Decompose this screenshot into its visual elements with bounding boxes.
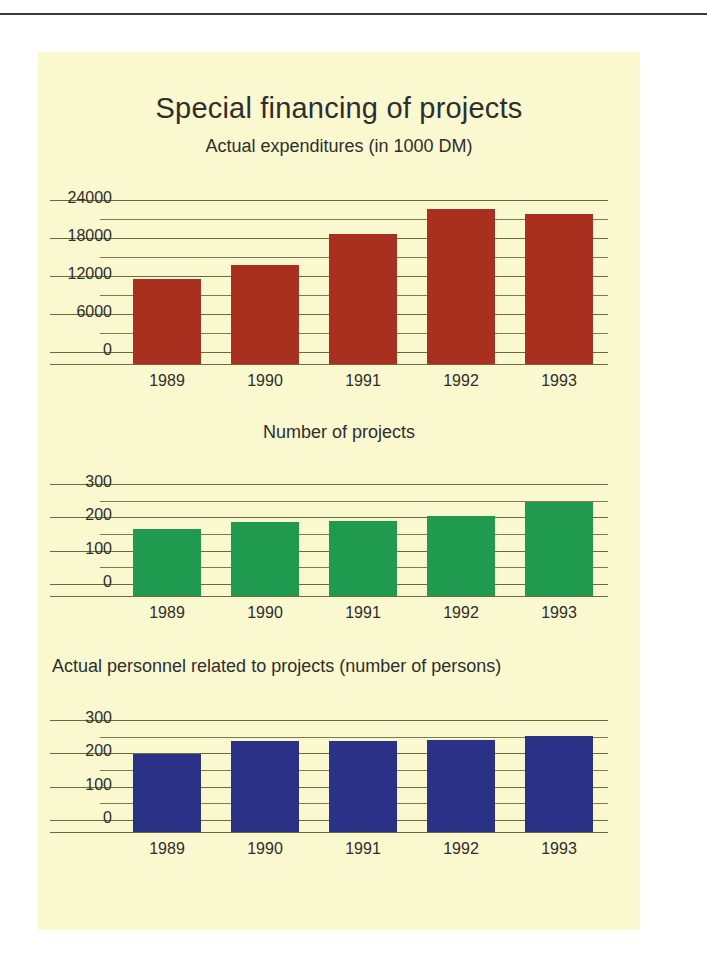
y-axis-tick-label: 6000 [38,303,112,321]
bar [525,214,593,364]
top-divider [0,13,707,15]
x-axis-tick-label: 1990 [216,372,314,390]
bar [329,741,397,832]
y-axis-tick-label: 200 [38,506,112,524]
x-axis-tick-label: 1993 [510,372,608,390]
major-gridline [50,200,608,201]
y-axis-tick-label: 0 [38,341,112,359]
x-axis-tick-label: 1989 [118,840,216,858]
y-axis-tick-label: 200 [38,742,112,760]
bar [231,741,299,832]
x-axis-tick-label: 1992 [412,372,510,390]
bar [525,502,593,596]
chart-title-projects: Number of projects [38,422,640,443]
y-axis-tick-label: 100 [38,540,112,558]
x-axis-tick-label: 1993 [510,840,608,858]
x-axis-tick-label: 1991 [314,604,412,622]
x-axis-tick-label: 1990 [216,840,314,858]
x-axis-tick-label: 1991 [314,840,412,858]
y-axis-tick-label: 12000 [38,265,112,283]
y-axis-tick-label: 18000 [38,227,112,245]
major-gridline [50,484,608,485]
chart-panel: Special financing of projects Actual exp… [38,52,640,930]
bar [525,736,593,832]
bar [329,521,397,596]
x-axis-tick-label: 1989 [118,372,216,390]
chart-personnel: 300200100019891990199119921993 [38,720,640,866]
bar [133,529,201,596]
page-root: Special financing of projects Actual exp… [0,0,707,972]
page-title: Special financing of projects [38,92,640,125]
bar [231,522,299,596]
baseline [50,364,608,365]
bar [427,740,495,832]
x-axis-tick-label: 1992 [412,604,510,622]
y-axis-tick-label: 300 [38,709,112,727]
y-axis-tick-label: 100 [38,776,112,794]
y-axis-tick-label: 0 [38,809,112,827]
baseline [50,832,608,833]
x-axis-tick-label: 1993 [510,604,608,622]
baseline [50,596,608,597]
chart-title-personnel: Actual personnel related to projects (nu… [52,656,501,677]
chart-title-expenditures: Actual expenditures (in 1000 DM) [38,136,640,157]
major-gridline [50,720,608,721]
y-axis-tick-label: 0 [38,573,112,591]
x-axis-tick-label: 1990 [216,604,314,622]
chart-expenditures: 2400018000120006000019891990199119921993 [38,200,640,398]
bar [329,234,397,364]
bar [133,279,201,364]
y-axis-tick-label: 300 [38,473,112,491]
bar [427,209,495,364]
x-axis-tick-label: 1991 [314,372,412,390]
bar [133,754,201,832]
x-axis-tick-label: 1992 [412,840,510,858]
bar [231,265,299,364]
x-axis-tick-label: 1989 [118,604,216,622]
y-axis-tick-label: 24000 [38,189,112,207]
bar [427,516,495,596]
chart-projects: 300200100019891990199119921993 [38,484,640,630]
